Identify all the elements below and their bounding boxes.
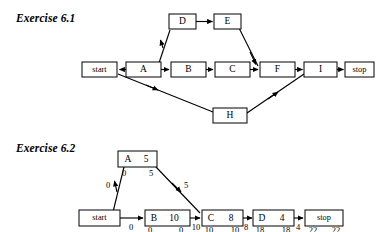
node-label: B	[151, 213, 157, 223]
node-early-start: 22	[309, 225, 318, 232]
node-label: start	[92, 213, 107, 222]
node-early-start: 10	[205, 225, 214, 232]
node-early-start: 0	[122, 168, 126, 178]
figure-canvas: Exercise 6.1 Exercise 6.2	[0, 0, 379, 232]
edge-label-C-D: 8	[244, 222, 248, 232]
node-label: D	[259, 213, 266, 223]
node-late-finish: 10	[231, 225, 240, 232]
node-late-finish: 0	[179, 225, 183, 232]
node-duration: 10	[169, 213, 179, 223]
node-D-62[interactable]: D 4 18 18	[253, 210, 294, 232]
node-C-62[interactable]: C 8 10 10	[202, 210, 243, 232]
node-A-62[interactable]: A 5 0 5	[118, 151, 157, 178]
edge-A-to-C-arrowhead	[172, 183, 181, 192]
edge-A-to-C	[156, 167, 200, 213]
edge-label-start-B: 0	[129, 222, 133, 232]
node-late-finish: 5	[149, 168, 153, 178]
node-early-start: 18	[256, 225, 265, 232]
exercise-62-diagram: 0 5 0 10 8 4 start A 5	[0, 0, 379, 232]
node-label: C	[208, 213, 214, 223]
edge-label-B-C: 10	[192, 222, 201, 232]
node-label: stop	[317, 213, 331, 222]
node-duration: 5	[144, 154, 149, 164]
node-label: A	[125, 154, 132, 164]
node-duration: 4	[280, 213, 285, 223]
node-B-62[interactable]: B 10 0 0	[145, 210, 190, 232]
node-start-62[interactable]: start	[79, 210, 120, 226]
edge-start-to-A-arrowhead	[115, 181, 118, 192]
edge-label-D-stop: 4	[296, 222, 301, 232]
node-stop-62[interactable]: stop 22 22	[305, 210, 343, 232]
node-duration: 8	[229, 213, 234, 223]
node-late-finish: 22	[332, 225, 341, 232]
node-late-finish: 18	[282, 225, 291, 232]
node-early-start: 0	[148, 225, 152, 232]
edge-label-start-A: 0	[106, 180, 110, 190]
edge-label-A-C: 5	[184, 180, 188, 190]
